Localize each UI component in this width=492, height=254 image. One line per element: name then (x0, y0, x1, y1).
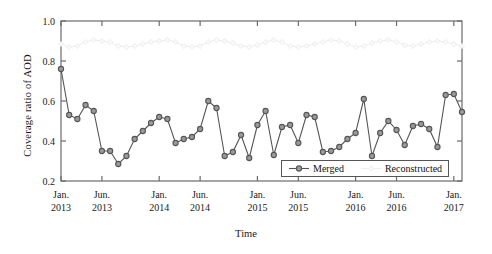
data-point (83, 39, 88, 44)
data-point (157, 38, 162, 43)
data-point (108, 148, 113, 153)
data-point (369, 40, 374, 45)
data-point (328, 148, 333, 153)
data-point (99, 148, 104, 153)
legend-label: Merged (313, 163, 344, 174)
data-point (108, 39, 113, 44)
data-point (99, 38, 104, 43)
data-point (418, 41, 423, 46)
data-point (345, 41, 350, 46)
data-point (459, 109, 464, 114)
data-point (271, 37, 276, 42)
data-point (427, 39, 432, 44)
circle-marker-icon (288, 163, 310, 174)
data-point (402, 42, 407, 47)
legend-entry-merged: Merged (288, 163, 344, 174)
data-point (189, 134, 194, 139)
data-point (214, 105, 219, 110)
series-line-0 (61, 69, 462, 164)
data-point (361, 96, 366, 101)
data-point (353, 130, 358, 135)
data-point (181, 136, 186, 141)
data-point (410, 123, 415, 128)
data-point (214, 37, 219, 42)
data-point (165, 37, 170, 42)
data-point (418, 121, 423, 126)
data-point (165, 116, 170, 121)
data-point (263, 108, 268, 113)
data-point (271, 152, 276, 157)
data-point (320, 149, 325, 154)
data-point (304, 112, 309, 117)
data-point (435, 38, 440, 43)
data-point (296, 140, 301, 145)
data-point (67, 112, 72, 117)
data-point (247, 44, 252, 49)
data-point (140, 128, 145, 133)
data-point (132, 136, 137, 141)
data-point (75, 116, 80, 121)
data-point (279, 39, 284, 44)
diamond-marker-icon (360, 163, 382, 174)
data-point (206, 39, 211, 44)
data-point (443, 92, 448, 97)
data-point (116, 161, 121, 166)
data-point (369, 153, 374, 158)
data-point (402, 142, 407, 147)
data-point (206, 98, 211, 103)
data-point (230, 149, 235, 154)
data-point (132, 43, 137, 48)
data-point (386, 37, 391, 42)
data-point (443, 39, 448, 44)
data-point (247, 155, 252, 160)
data-point (83, 102, 88, 107)
data-point (312, 41, 317, 46)
data-point (255, 122, 260, 127)
data-point (361, 43, 366, 48)
data-point (337, 144, 342, 149)
data-point (91, 108, 96, 113)
data-point (58, 66, 63, 71)
data-point (148, 39, 153, 44)
data-point (91, 37, 96, 42)
data-point (337, 38, 342, 43)
data-point (328, 37, 333, 42)
legend-label: Reconstructed (385, 163, 442, 174)
data-point (435, 144, 440, 149)
data-point (459, 43, 464, 48)
data-point (394, 127, 399, 132)
data-point (312, 114, 317, 119)
data-point (222, 153, 227, 158)
legend-entry-reconstructed: Reconstructed (360, 163, 442, 174)
data-point (124, 44, 129, 49)
data-point (124, 153, 129, 158)
data-point (378, 130, 383, 135)
data-point (451, 41, 456, 46)
data-point (189, 44, 194, 49)
series-reconstructed (58, 37, 464, 49)
data-point (394, 39, 399, 44)
data-point (427, 126, 432, 131)
data-point (345, 136, 350, 141)
data-point (238, 43, 243, 48)
data-point (67, 44, 72, 49)
data-point (173, 140, 178, 145)
data-point (222, 38, 227, 43)
data-point (279, 124, 284, 129)
data-point (263, 39, 268, 44)
data-point (230, 40, 235, 45)
data-point (148, 120, 153, 125)
data-point (58, 41, 63, 46)
series-merged (58, 66, 464, 166)
plot-canvas (0, 0, 492, 254)
data-point (116, 43, 121, 48)
data-point (173, 39, 178, 44)
data-point (238, 132, 243, 137)
data-point (386, 118, 391, 123)
chart-legend: MergedReconstructed (281, 160, 449, 177)
chart-figure: Coverage ratio of AOD Time 0.20.40.60.81… (0, 0, 492, 254)
data-point (75, 43, 80, 48)
data-point (304, 43, 309, 48)
data-point (198, 126, 203, 131)
data-point (181, 43, 186, 48)
